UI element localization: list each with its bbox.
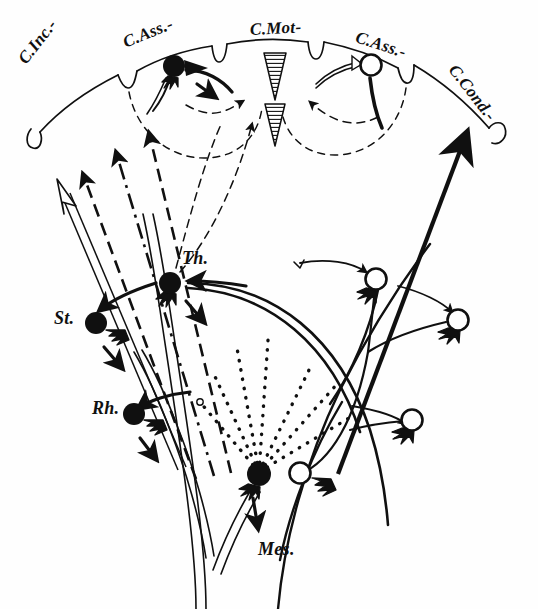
neuron-striatum (85, 312, 107, 334)
neuron-rhinencephalon (123, 403, 145, 425)
motor-outflow-triangles (264, 53, 286, 146)
neuron-right-upper (366, 269, 387, 290)
nucleus-label-mes: Mes. (258, 539, 295, 560)
fan-ray-3 (237, 348, 259, 472)
neuron-cass-left (163, 55, 185, 77)
neuron-right-mid (448, 310, 469, 331)
flag-cass-left (197, 84, 215, 97)
fan-ray-terminal-open (197, 399, 203, 405)
neuron-thalamus (159, 272, 181, 294)
incitans-arrow-bundle (57, 133, 231, 479)
nucleus-label-rh: Rh. (92, 398, 119, 419)
assoc-to-motor-right-dashed (310, 102, 378, 123)
fan-ray-6 (259, 384, 337, 472)
flag-th (186, 301, 204, 322)
assoc-to-motor-left-dashed (186, 101, 243, 113)
cortex-label-c-mot: C.Mot- (249, 17, 301, 40)
thalamic-sweep-curve (188, 283, 388, 525)
cortical-inner-boundaries (129, 88, 406, 158)
nucleus-label-th: Th. (182, 248, 208, 269)
fan-ray-2 (212, 370, 259, 472)
neuron-mesencephalon-open (290, 463, 311, 484)
diagram-canvas (0, 0, 538, 609)
arrow-hollow (57, 179, 186, 470)
tri-lower (265, 104, 285, 146)
flag-mes (253, 498, 258, 528)
tri-upper (264, 53, 286, 100)
flag-rh (140, 438, 156, 459)
neuron-cass-right (361, 55, 382, 76)
dotted-fan (200, 340, 349, 472)
nucleus-label-st: St. (54, 308, 74, 329)
fan-ray-4 (259, 340, 268, 472)
neuron-mesencephalon-filled (247, 462, 271, 486)
neuron-right-lower (402, 410, 423, 431)
flag-st (104, 347, 122, 368)
figure-root: C.Inc.- C.Ass.- C.Mot- C.Ass.- C.Cond.- … (0, 0, 538, 609)
